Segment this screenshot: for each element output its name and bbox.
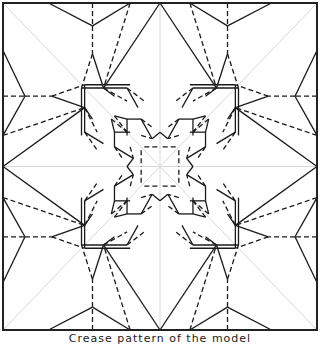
- valley-fold-line: [190, 3, 217, 88]
- mountain-fold-line: [295, 237, 317, 283]
- valley-fold-line: [82, 245, 93, 279]
- mountain-fold-line: [160, 194, 168, 201]
- valley-fold-line: [82, 54, 93, 88]
- mountain-fold-line: [160, 245, 217, 330]
- valley-fold-line: [103, 88, 127, 101]
- valley-fold-line: [52, 85, 85, 96]
- mountain-fold-line: [92, 54, 103, 88]
- valley-fold-line: [228, 245, 239, 279]
- mountain-fold-line: [217, 132, 236, 143]
- mountain-fold-line: [49, 307, 93, 330]
- mountain-fold-line: [3, 108, 85, 167]
- reference-lines: [3, 3, 317, 330]
- mountain-fold-line: [187, 167, 193, 175]
- mountain-fold-line: [235, 96, 268, 107]
- mountain-fold-line: [127, 167, 133, 175]
- mountain-fold-line: [85, 189, 104, 200]
- valley-fold-line: [103, 3, 130, 88]
- mountain-fold-line: [295, 50, 317, 96]
- mountain-fold-line: [127, 225, 138, 245]
- valley-fold-line: [127, 232, 144, 245]
- valley-fold-line: [85, 201, 98, 226]
- mountain-fold-line: [3, 167, 85, 226]
- valley-fold-line: [127, 88, 144, 101]
- mountain-fold-line: [152, 194, 160, 201]
- mountain-fold-line: [217, 189, 236, 200]
- valley-fold-line: [223, 201, 236, 226]
- mountain-fold-line: [235, 225, 268, 236]
- mountain-fold-line: [160, 3, 217, 88]
- valley-fold-line: [3, 198, 85, 226]
- mountain-fold-line: [217, 245, 228, 279]
- mountain-fold-line: [182, 88, 193, 108]
- valley-fold-line: [235, 108, 317, 136]
- valley-fold-line: [228, 54, 239, 88]
- valley-fold-line: [52, 237, 85, 248]
- valley-fold-line: [190, 245, 217, 330]
- mountain-fold-line: [49, 3, 93, 26]
- valley-fold-line: [235, 237, 268, 248]
- mountain-fold-line: [187, 158, 193, 166]
- valley-fold-line: [85, 183, 98, 201]
- figure-caption: Crease pattern of the model: [0, 332, 320, 345]
- mountain-fold-line: [152, 132, 160, 139]
- mountain-fold-line: [127, 88, 138, 108]
- mountain-fold-line: [52, 225, 85, 236]
- valley-fold-line: [85, 132, 98, 150]
- mountain-fold-line: [52, 96, 85, 107]
- valley-fold-line: [235, 85, 268, 96]
- valley-fold-line: [176, 88, 193, 101]
- valley-fold-line: [223, 108, 236, 133]
- valley-fold-line: [223, 183, 236, 201]
- valley-fold-line: [235, 198, 317, 226]
- valley-fold-line: [176, 232, 193, 245]
- mountain-fold-line: [103, 245, 160, 330]
- mountain-fold-line: [228, 3, 272, 26]
- valley-fold-line: [3, 108, 85, 136]
- mountain-fold-line: [127, 158, 133, 166]
- valley-fold-line: [103, 245, 130, 330]
- mountain-fold-line: [235, 108, 317, 167]
- valley-fold-line: [193, 88, 217, 101]
- valley-fold-line: [85, 108, 98, 133]
- mountain-fold-line: [217, 54, 228, 88]
- mountain-fold-line: [3, 237, 25, 283]
- mountain-fold-line: [182, 225, 193, 245]
- mountain-fold-line: [235, 167, 317, 226]
- mountain-fold-line: [92, 245, 103, 279]
- valley-fold-line: [223, 132, 236, 150]
- valley-fold-line: [193, 232, 217, 245]
- mountain-fold-line: [3, 50, 25, 96]
- mountain-fold-line: [85, 132, 104, 143]
- mountain-fold-line: [228, 307, 272, 330]
- mountain-fold-line: [160, 132, 168, 139]
- mountain-fold-line: [103, 3, 160, 88]
- valley-fold-line: [103, 232, 127, 245]
